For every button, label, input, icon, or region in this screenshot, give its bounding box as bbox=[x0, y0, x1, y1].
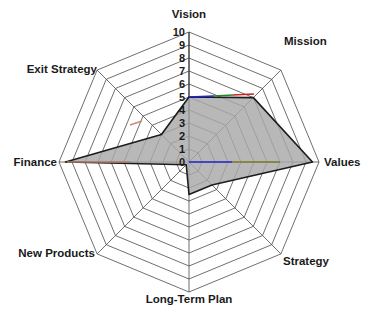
axis-label-strategy: Strategy bbox=[283, 255, 330, 267]
radar-chart-svg: 10 9 8 7 6 5 4 3 2 1 0 Vision Mission Va… bbox=[0, 0, 373, 313]
axis-label-values: Values bbox=[324, 156, 360, 168]
tick-label-9: 9 bbox=[179, 39, 185, 51]
tick-label-3: 3 bbox=[179, 117, 185, 129]
axis-label-mission: Mission bbox=[284, 35, 327, 47]
tick-label-5: 5 bbox=[179, 91, 185, 103]
radar-chart-container: 10 9 8 7 6 5 4 3 2 1 0 Vision Mission Va… bbox=[0, 0, 373, 313]
accent-segment-green-top bbox=[214, 95, 233, 96]
tick-label-8: 8 bbox=[179, 52, 185, 64]
tick-label-4: 4 bbox=[179, 104, 186, 116]
tick-label-1: 1 bbox=[179, 143, 185, 155]
axis-label-long-term-plan: Long-Term Plan bbox=[146, 293, 233, 305]
tick-label-2: 2 bbox=[179, 130, 185, 142]
axis-label-finance: Finance bbox=[14, 156, 57, 168]
axis-label-exit-strategy: Exit Strategy bbox=[27, 63, 98, 75]
tick-label-6: 6 bbox=[179, 78, 185, 90]
accent-segment-red-top bbox=[233, 94, 254, 95]
tick-label-7: 7 bbox=[179, 65, 185, 77]
axis-label-new-products: New Products bbox=[18, 247, 95, 259]
tick-label-10: 10 bbox=[173, 26, 185, 38]
axis-label-vision: Vision bbox=[172, 8, 206, 20]
accent-segment-blue-top bbox=[189, 96, 214, 97]
tick-label-0: 0 bbox=[179, 156, 185, 168]
